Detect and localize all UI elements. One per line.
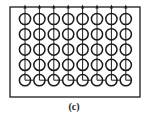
- circle-cells: [19, 4, 131, 85]
- figure-caption: (c): [0, 101, 148, 112]
